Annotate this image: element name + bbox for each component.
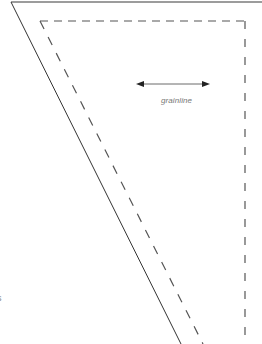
pattern-piece-canvas xyxy=(0,0,262,344)
grainline-arrow-icon xyxy=(136,81,210,87)
cropped-edge-text: s xyxy=(0,293,2,303)
cut-line xyxy=(11,2,262,344)
grainline-label: grainline xyxy=(161,96,192,105)
seam-line xyxy=(40,21,245,344)
